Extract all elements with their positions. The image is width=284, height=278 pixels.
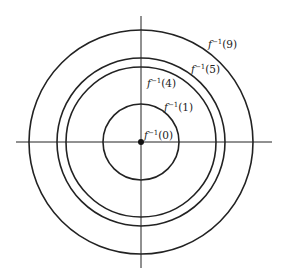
label-f-inverse-1: f−1(1) [163,101,193,113]
label-f-inverse-0: f−1(0) [143,129,173,141]
label-f-inverse-9: f−1(9) [207,38,237,50]
label-f-inverse-5: f−1(5) [190,63,220,75]
label-f-inverse-4: f−1(4) [146,77,176,89]
level-set-diagram: f−1(0) f−1(1) f−1(4) f−1(5) f−1(9) [0,0,284,278]
